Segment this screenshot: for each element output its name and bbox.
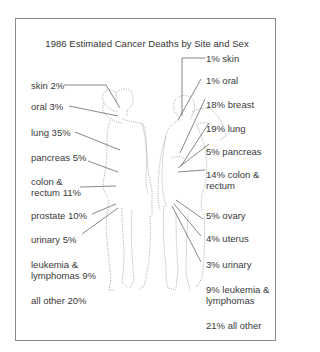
male-lung-label: lung 35% <box>31 127 71 138</box>
female-skin-label: 1% skin <box>206 53 239 64</box>
male-leukemia-label-line2: lymphomas 9% <box>31 270 96 281</box>
male-leukemia-label-line1: leukemia & <box>31 259 78 270</box>
male-figure <box>103 89 152 290</box>
female-leukemia-label-line1: 9% leukemia & <box>206 284 269 295</box>
female-colon-label-line1: 14% colon & <box>206 169 259 180</box>
female-uterus-label: 4% uterus <box>206 233 249 244</box>
female-ovary-label: 5% ovary <box>206 210 246 221</box>
male-skin-label: skin 2% <box>31 80 64 91</box>
male-colon-label-line2: rectum 11% <box>31 187 81 198</box>
female-colon-label-line2: rectum <box>206 180 235 191</box>
male-other-label: all other 20% <box>31 295 86 306</box>
male-urinary-label: urinary 5% <box>31 234 76 245</box>
female-pancreas-label: 5% pancreas <box>206 146 261 157</box>
female-urinary-label: 3% urinary <box>206 259 251 270</box>
male-oral-label: oral 3% <box>31 101 63 112</box>
male-prostate-label: prostate 10% <box>31 210 87 221</box>
male-pancreas-label: pancreas 5% <box>31 152 86 163</box>
female-breast-label: 18% breast <box>206 99 254 110</box>
female-leukemia-label-line2: lymphomas <box>206 295 255 306</box>
male-colon-label-line1: colon & <box>31 176 63 187</box>
female-other-label: 21% all other <box>206 320 261 331</box>
female-oral-label: 1% oral <box>206 75 238 86</box>
female-lung-label: 19% lung <box>206 123 246 134</box>
